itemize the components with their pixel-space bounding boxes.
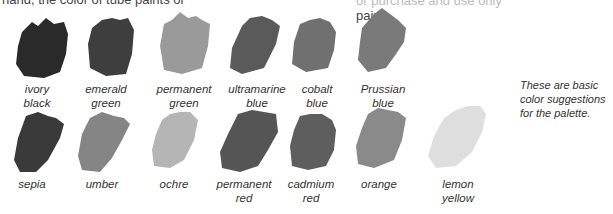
swatch-emerald-green <box>86 14 136 76</box>
swatch-permanent-green <box>158 10 214 76</box>
label-line: Prussian <box>343 82 423 96</box>
swatch-label: ochre <box>134 177 214 191</box>
swatch-ivory-black <box>14 14 72 80</box>
swatch-permanent-red <box>218 108 280 174</box>
label-line: orange <box>339 177 419 191</box>
swatch-umber <box>76 110 132 174</box>
swatch-ochre <box>150 110 200 170</box>
swatch-orange <box>354 106 408 170</box>
label-line: red <box>271 191 351 205</box>
note-line: color suggestions <box>520 92 613 106</box>
swatch-ultramarine-blue <box>228 14 282 74</box>
note-line: for the palette. <box>520 106 613 120</box>
label-line: ochre <box>134 177 214 191</box>
label-line: emerald <box>66 82 146 96</box>
body-text-fragment: hand, the color of tube paints or <box>2 0 185 7</box>
label-line: permanent <box>144 82 224 96</box>
swatch-cadmium-red <box>288 110 338 172</box>
label-line: umber <box>62 177 142 191</box>
swatch-cobalt-blue <box>290 14 338 74</box>
palette-note: These are basic color suggestions for th… <box>520 78 613 120</box>
swatch-prussian-blue <box>356 6 408 74</box>
swatch-lemon-yellow <box>426 104 488 170</box>
swatch-label: umber <box>62 177 142 191</box>
label-line: green <box>144 96 224 110</box>
swatch-label: lemonyellow <box>418 177 498 205</box>
swatch-label: orange <box>339 177 419 191</box>
note-line: These are basic <box>520 78 613 92</box>
swatch-sepia <box>12 110 66 174</box>
swatch-label: permanentgreen <box>144 82 224 110</box>
label-line: yellow <box>418 191 498 205</box>
swatch-label: emeraldgreen <box>66 82 146 110</box>
label-line: green <box>66 96 146 110</box>
label-line: lemon <box>418 177 498 191</box>
